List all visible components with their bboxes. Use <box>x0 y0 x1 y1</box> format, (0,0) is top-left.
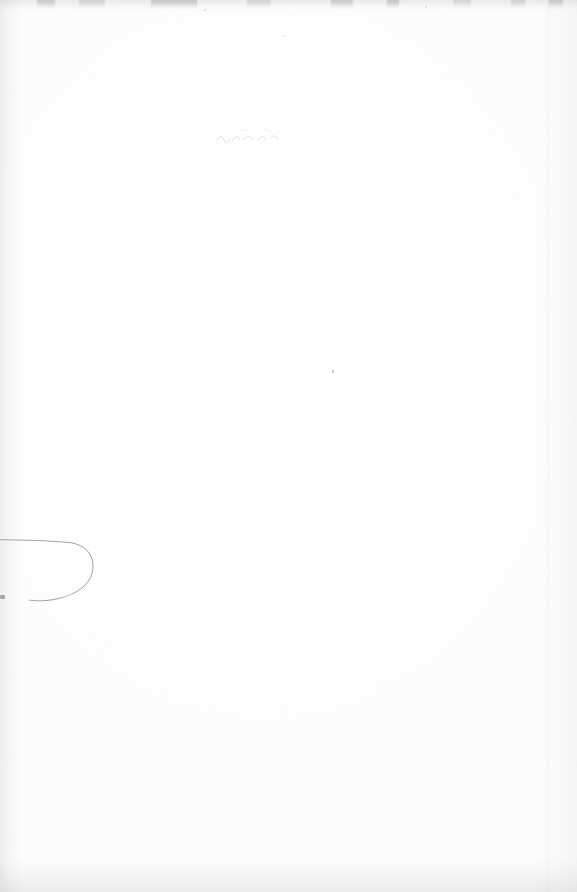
scanned-page <box>0 0 577 892</box>
paper-grain-texture <box>0 0 577 892</box>
